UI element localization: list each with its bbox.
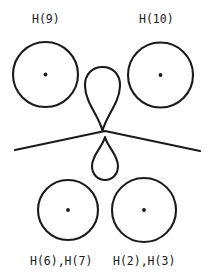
label-h6-h7: H(6),H(7) (30, 255, 92, 268)
lobe-lower (92, 137, 118, 180)
diagram-canvas (0, 0, 212, 278)
orbital-diagram: H(9) H(10) H(6),H(7) H(2),H(3) (0, 0, 212, 278)
center-dot-top-right (159, 73, 163, 77)
center-dot-top-left (44, 73, 48, 77)
center-dot-bottom-right (142, 208, 146, 212)
lobe-upper (85, 67, 120, 131)
label-h2-h3: H(2),H(3) (113, 255, 175, 268)
label-h10: H(10) (139, 13, 174, 26)
center-dot-bottom-left (66, 208, 70, 212)
label-h9: H(9) (32, 13, 60, 26)
